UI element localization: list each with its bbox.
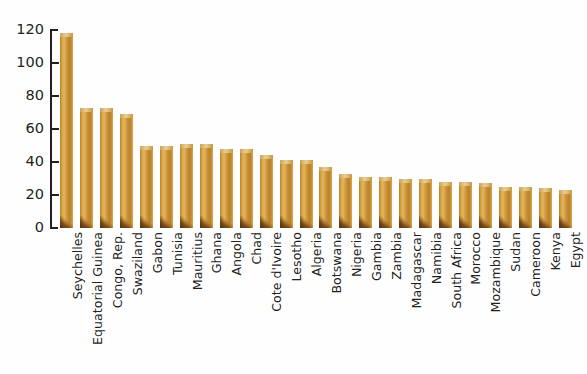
x-axis-label-text: Botswana (330, 232, 343, 294)
x-axis-label-text: Tunisia (171, 232, 184, 275)
x-axis-label-text: Namibia (430, 232, 443, 284)
bar-chart: 020406080100120 SeychellesEquatorial Gui… (0, 0, 587, 374)
x-axis-label: Congo, Rep. (111, 232, 124, 308)
x-axis-label-text: Gabon (151, 232, 164, 273)
x-axis-label-text: Gambia (370, 232, 383, 281)
bar (379, 177, 392, 228)
x-axis-label: Botswana (330, 232, 343, 294)
y-axis-tick-label: 100 (0, 55, 44, 70)
x-axis-label: Angola (230, 232, 243, 276)
x-axis-label-text: Cote d'Ivoire (270, 232, 283, 312)
x-axis-label: Cameroon (529, 232, 542, 297)
x-axis-label-text: Mauritius (191, 232, 204, 290)
bar (120, 114, 133, 228)
x-axis-label-text: Cameroon (529, 232, 542, 297)
bar (499, 187, 512, 228)
x-axis-label: Egypt (569, 232, 582, 268)
bar (60, 33, 73, 228)
x-axis-label: Algeria (310, 232, 323, 276)
x-axis-label: Namibia (430, 232, 443, 284)
bar (339, 174, 352, 228)
bar (80, 108, 93, 228)
x-axis-label-text: Congo, Rep. (111, 232, 124, 308)
bar (300, 160, 313, 228)
x-axis-label-text: Angola (230, 232, 243, 276)
bar (419, 179, 432, 229)
x-axis-label-text: Seychelles (71, 232, 84, 299)
x-axis-label: Gabon (151, 232, 164, 273)
x-axis-label: Madagascar (410, 232, 423, 308)
x-axis-label-text: Nigeria (350, 232, 363, 277)
x-axis-label-text: Equatorial Guinea (91, 232, 104, 345)
bar (220, 149, 233, 228)
bar (399, 179, 412, 229)
x-axis-label: Chad (250, 232, 263, 265)
bar (519, 187, 532, 228)
x-axis-label: Mauritius (191, 232, 204, 290)
x-axis-label: Ghana (210, 232, 223, 273)
x-axis-label: Morocco (469, 232, 482, 285)
x-axis-label-text: Lesotho (290, 232, 303, 281)
x-axis-label: Seychelles (71, 232, 84, 299)
x-axis-label-text: Egypt (569, 232, 582, 268)
x-axis-label-text: Swaziland (131, 232, 144, 295)
y-axis-tick-label: 60 (0, 121, 44, 136)
x-axis-label: Equatorial Guinea (91, 232, 104, 345)
x-axis-label: Kenya (549, 232, 562, 271)
bar (280, 160, 293, 228)
x-axis-label-text: Zambia (390, 232, 403, 280)
bar (240, 149, 253, 228)
x-axis-label-text: Ghana (210, 232, 223, 273)
x-axis-label-text: Algeria (310, 232, 323, 276)
x-axis-label: Nigeria (350, 232, 363, 277)
y-axis-tick-label: 120 (0, 22, 44, 37)
y-axis-tick-label: 80 (0, 88, 44, 103)
x-axis-label-text: Madagascar (410, 232, 423, 308)
bar (160, 146, 173, 229)
y-axis-tick-label: 40 (0, 154, 44, 169)
x-axis-label: Cote d'Ivoire (270, 232, 283, 312)
x-axis-label: Lesotho (290, 232, 303, 281)
bar (539, 188, 552, 228)
x-axis-label: Zambia (390, 232, 403, 280)
bar (180, 144, 193, 228)
x-axis-label-text: South Africa (450, 232, 463, 309)
x-axis-label: Mozambique (489, 232, 502, 312)
bar (479, 183, 492, 228)
bar (439, 182, 452, 228)
bar (319, 167, 332, 228)
y-axis-tick-label: 20 (0, 187, 44, 202)
bar-series (57, 30, 581, 228)
x-axis-label: Tunisia (171, 232, 184, 275)
bar (200, 144, 213, 228)
x-axis-label: Swaziland (131, 232, 144, 295)
x-axis-label-text: Sudan (509, 232, 522, 272)
x-axis-label: Sudan (509, 232, 522, 272)
x-axis-label: South Africa (450, 232, 463, 309)
x-axis-label-text: Morocco (469, 232, 482, 285)
x-axis-label-text: Mozambique (489, 232, 502, 312)
x-axis-label-text: Chad (250, 232, 263, 265)
y-axis-tick-label: 0 (0, 220, 44, 235)
x-axis-labels: SeychellesEquatorial GuineaCongo, Rep.Sw… (57, 232, 581, 362)
bar (100, 108, 113, 228)
x-axis-label-text: Kenya (549, 232, 562, 271)
bar (459, 182, 472, 228)
bar (359, 177, 372, 228)
bar (140, 146, 153, 229)
bar (260, 155, 273, 228)
bar (559, 190, 572, 228)
x-axis-label: Gambia (370, 232, 383, 281)
